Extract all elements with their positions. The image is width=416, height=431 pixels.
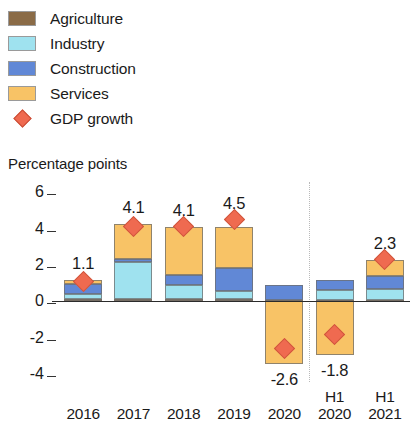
x-axis-label: 2017 bbox=[108, 405, 158, 422]
x-axis-labels: 20162017201820192020H12020H12021 bbox=[58, 388, 410, 431]
bar-segment-industry bbox=[114, 262, 152, 299]
x-axis-label-line: 2019 bbox=[209, 405, 259, 422]
data-label: -1.8 bbox=[321, 361, 348, 380]
y-axis-tick-label: 2 bbox=[18, 256, 44, 274]
legend-item-services: Services bbox=[8, 81, 218, 106]
plot-canvas: 1.14.14.14.5-2.6-1.82.3 bbox=[58, 185, 410, 385]
y-axis-tick: 0 bbox=[18, 292, 56, 310]
y-axis-title: Percentage points bbox=[8, 155, 127, 172]
legend-swatch-agriculture bbox=[8, 11, 36, 26]
bar-segment-construction bbox=[366, 276, 404, 289]
legend-label-industry: Industry bbox=[50, 36, 104, 51]
legend-swatch-services bbox=[8, 86, 36, 101]
x-axis-label: 2016 bbox=[58, 405, 108, 422]
bar-group[interactable]: 4.1 bbox=[165, 185, 203, 385]
zero-axis-line bbox=[52, 301, 410, 302]
bar-segment-construction bbox=[215, 268, 253, 291]
x-axis-label: H12020 bbox=[309, 388, 359, 422]
bar-segment-construction bbox=[114, 259, 152, 262]
legend-label-gdp-growth: GDP growth bbox=[50, 111, 133, 126]
bar-segment-industry bbox=[64, 294, 102, 299]
bar-segment-services bbox=[215, 227, 253, 268]
legend-swatch-industry bbox=[8, 36, 36, 51]
legend-item-agriculture: Agriculture bbox=[8, 6, 218, 31]
bar-segment-industry bbox=[316, 290, 354, 300]
bar-segment-industry bbox=[165, 285, 203, 300]
legend-item-industry: Industry bbox=[8, 31, 218, 56]
y-axis-tick-label: -2 bbox=[18, 329, 44, 347]
x-axis-label-line: 2016 bbox=[58, 405, 108, 422]
y-axis-tick-label: 4 bbox=[18, 220, 44, 238]
bar-group[interactable]: 4.5 bbox=[215, 185, 253, 385]
legend-label-agriculture: Agriculture bbox=[50, 11, 123, 26]
x-axis-label-line: 2020 bbox=[259, 405, 309, 422]
y-axis-tick: -4 bbox=[18, 365, 56, 383]
legend-label-construction: Construction bbox=[50, 61, 136, 76]
bar-group[interactable]: -2.6 bbox=[265, 185, 303, 385]
legend-label-services: Services bbox=[50, 86, 109, 101]
x-axis-label-line: 2021 bbox=[360, 405, 410, 422]
y-axis-tick-mark bbox=[47, 376, 56, 377]
y-axis-ticks: 6420-2-4 bbox=[4, 185, 56, 385]
data-label: 4.1 bbox=[173, 201, 195, 220]
x-axis-label: 2018 bbox=[159, 405, 209, 422]
bar-group[interactable]: 1.1 bbox=[64, 185, 102, 385]
x-axis-label-line: H1 bbox=[360, 388, 410, 405]
x-axis-label: H12021 bbox=[360, 388, 410, 422]
x-axis-label-line: 2018 bbox=[159, 405, 209, 422]
bar-group[interactable]: 2.3 bbox=[366, 185, 404, 385]
legend-swatch-construction bbox=[8, 61, 36, 76]
y-axis-tick-mark bbox=[47, 231, 56, 232]
bar-group[interactable]: -1.8 bbox=[316, 185, 354, 385]
y-axis-tick-mark bbox=[47, 194, 56, 195]
bar-segment-industry bbox=[366, 289, 404, 300]
y-axis-tick-label: 0 bbox=[18, 292, 44, 310]
y-axis-tick: 6 bbox=[18, 183, 56, 201]
y-axis-tick-label: 6 bbox=[18, 183, 44, 201]
x-axis-label: 2020 bbox=[259, 405, 309, 422]
x-axis-label-line: 2017 bbox=[108, 405, 158, 422]
data-label: -2.6 bbox=[271, 370, 298, 389]
data-label: 4.1 bbox=[122, 198, 144, 217]
bar-group[interactable]: 4.1 bbox=[114, 185, 152, 385]
bar-segment-construction bbox=[265, 285, 303, 300]
y-axis-tick-mark bbox=[47, 340, 56, 341]
y-axis-tick-label: -4 bbox=[18, 365, 44, 383]
x-axis-label-line: 2020 bbox=[309, 405, 359, 422]
x-axis-label: 2019 bbox=[209, 405, 259, 422]
y-axis-tick: 2 bbox=[18, 256, 56, 274]
y-axis-tick: 4 bbox=[18, 220, 56, 238]
y-axis-tick-mark bbox=[47, 267, 56, 268]
period-separator-line bbox=[309, 182, 310, 382]
plot-area: 6420-2-4 1.14.14.14.5-2.6-1.82.3 bbox=[0, 185, 416, 385]
legend-diamond-icon bbox=[8, 111, 36, 126]
data-label: 1.1 bbox=[72, 254, 94, 273]
bar-segment-industry bbox=[215, 291, 253, 299]
x-axis-label-line: H1 bbox=[309, 388, 359, 405]
legend-item-construction: Construction bbox=[8, 56, 218, 81]
data-label: 4.5 bbox=[223, 194, 245, 213]
data-label: 2.3 bbox=[374, 234, 396, 253]
y-axis-tick-mark bbox=[47, 303, 56, 304]
chart-figure: Agriculture Industry Construction Servic… bbox=[0, 0, 416, 431]
y-axis-tick: -2 bbox=[18, 329, 56, 347]
legend-item-gdp-growth: GDP growth bbox=[8, 106, 218, 131]
bar-segment-construction bbox=[316, 280, 354, 290]
chart-legend: Agriculture Industry Construction Servic… bbox=[8, 6, 218, 131]
bar-segment-construction bbox=[165, 275, 203, 285]
